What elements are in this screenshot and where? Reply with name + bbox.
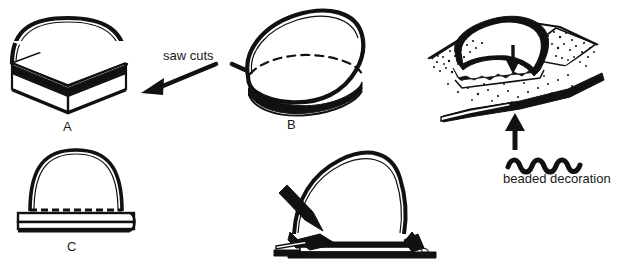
arrow-left-shaft	[158, 64, 216, 88]
saw-cuts-label: saw cuts	[163, 49, 214, 62]
panel-c-bezel-lower	[18, 222, 134, 229]
panel-b-letter: B	[287, 118, 296, 131]
panel-c-bezel-upper	[18, 213, 134, 222]
panel-b-dome-outline	[247, 11, 363, 103]
illustration-artwork	[0, 0, 629, 266]
arrow-left-head	[141, 78, 164, 95]
saw-cuts-arrow-left	[141, 64, 216, 95]
up-arrow-head	[505, 113, 525, 131]
panel-d-base-plate	[288, 252, 436, 258]
panel-d-artwork	[274, 153, 436, 258]
panel-a-artwork	[10, 18, 128, 113]
panel-setting-artwork	[428, 16, 604, 150]
panel-c-letter: C	[67, 240, 77, 253]
panel-d-letter: D	[420, 246, 430, 259]
setting-up-arrow	[505, 113, 525, 150]
panel-d-left-base	[274, 250, 300, 256]
panel-b-artwork	[247, 11, 363, 116]
illustration-canvas: and a bezel is burnished	[0, 0, 629, 266]
panel-a-letter: A	[63, 120, 72, 133]
panel-c-dome-outline	[30, 150, 122, 211]
panel-c-artwork	[18, 150, 135, 231]
beaded-decoration-label: beaded decoration	[503, 172, 611, 185]
